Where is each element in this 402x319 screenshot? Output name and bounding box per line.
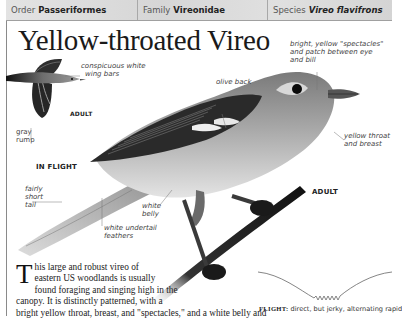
label-spectacles: bright, yellow "spectacles" and patch be… <box>290 40 383 64</box>
label-undertail-feathers: white undertail feathers <box>104 224 157 240</box>
adult-bird-icon <box>18 72 360 280</box>
label-wing-bars: conspicuous white wing bars <box>81 62 146 78</box>
flight-description: FLIGHT: direct, but jerky, alternating r… <box>259 305 402 313</box>
label-olive-back: olive back <box>216 78 251 86</box>
in-flight-caption: IN FLIGHT <box>36 163 77 171</box>
drop-cap: T <box>16 263 33 285</box>
flight-text: direct, but jerky, alternating rapid <box>291 305 402 313</box>
label-gray-rump: gray rump <box>16 128 35 144</box>
adult-caption: ADULT <box>312 188 338 196</box>
flight-label: FLIGHT: <box>259 305 288 312</box>
label-yellow-throat: yellow throat and breast <box>344 132 390 148</box>
label-white-belly: white belly <box>142 202 161 218</box>
label-short-tail: fairly short tail <box>25 185 43 209</box>
inflight-adult-tag: ADULT <box>70 110 92 117</box>
